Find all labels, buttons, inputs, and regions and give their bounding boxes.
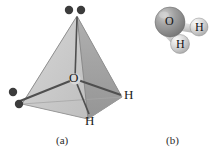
- atom-label-hydrogen-right: H: [124, 88, 133, 101]
- atom-label-b-hydrogen-lower: H: [176, 38, 185, 50]
- atom-label-hydrogen-front: H: [85, 114, 94, 127]
- lone-pair-dot-left-upper: [9, 88, 17, 96]
- water-molecule-figure: O H H (a): [0, 0, 216, 163]
- atom-label-b-hydrogen-right: H: [195, 21, 204, 33]
- lone-pair-dot-left-lower: [15, 100, 23, 108]
- atom-label-b-oxygen: O: [165, 15, 174, 27]
- caption-a: (a): [56, 135, 68, 146]
- lone-pair-dot-top-left: [65, 6, 73, 14]
- panel-b-ball-and-stick: O H H (b): [145, 0, 216, 163]
- atom-label-oxygen: O: [69, 71, 78, 84]
- panel-a-tetrahedron: O H H (a): [0, 0, 145, 163]
- ball-and-stick-drawing: [145, 0, 216, 163]
- caption-b: (b): [166, 135, 179, 146]
- lone-pair-dot-top-right: [77, 6, 85, 14]
